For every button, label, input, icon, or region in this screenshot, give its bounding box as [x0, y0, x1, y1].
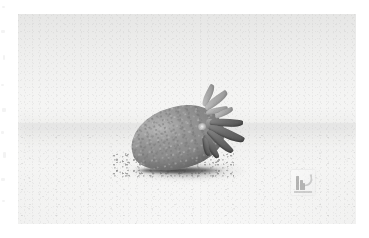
scan-artifact-mark	[3, 152, 6, 158]
watermark-bar	[296, 176, 299, 190]
page-root	[0, 0, 369, 238]
scan-artifact-mark	[1, 30, 5, 33]
watermark-baseline	[294, 191, 312, 193]
berry-calyx	[130, 96, 252, 176]
scan-edge-artifacts	[0, 0, 14, 238]
scan-artifact-mark	[3, 55, 5, 60]
watermark-bar	[303, 183, 305, 190]
scan-artifact-mark	[2, 108, 6, 112]
scan-artifact-mark	[1, 131, 4, 134]
scan-artifact-mark	[2, 6, 5, 8]
scan-artifact-mark	[1, 84, 4, 86]
scan-artifact-mark	[2, 200, 5, 202]
scan-artifact-mark	[1, 178, 5, 181]
strawberry	[130, 96, 252, 176]
stock-photo-watermark	[291, 170, 315, 195]
